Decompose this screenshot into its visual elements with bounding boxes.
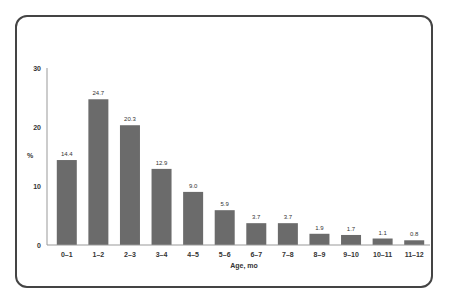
bar [373, 239, 393, 245]
x-tick-label: 5–6 [219, 251, 231, 258]
y-tick-label: 30 [33, 65, 41, 72]
bar-value-label: 1.7 [347, 226, 356, 232]
x-tick-label: 0–1 [61, 251, 73, 258]
bar-value-label: 1.9 [315, 225, 324, 231]
x-axis: 0–11–22–33–44–55–66–77–88–99–1010–1111–1… [47, 245, 430, 258]
x-tick-label: 9–10 [343, 251, 359, 258]
x-axis-title: Age, mo [230, 262, 258, 270]
x-tick-label: 8–9 [314, 251, 326, 258]
bars: 14.424.720.312.99.05.93.73.71.91.71.10.8 [57, 90, 424, 245]
bar [215, 210, 235, 245]
bar-chart: 0102030 14.424.720.312.99.05.93.73.71.91… [0, 0, 451, 302]
bar [309, 234, 329, 245]
bar-value-label: 5.9 [221, 201, 230, 207]
x-tick-label: 4–5 [187, 251, 199, 258]
x-tick-label: 6–7 [250, 251, 262, 258]
bar [278, 223, 298, 245]
bar [57, 160, 77, 245]
x-tick-label: 2–3 [124, 251, 136, 258]
x-tick-label: 10–11 [373, 251, 392, 258]
y-tick-label: 10 [33, 183, 41, 190]
y-axis-title: % [27, 152, 34, 159]
y-tick-label: 20 [33, 124, 41, 131]
bar-value-label: 9.0 [189, 183, 198, 189]
bar [246, 223, 266, 245]
bar [88, 99, 108, 245]
bar [404, 240, 424, 245]
bar-value-label: 0.8 [410, 231, 419, 237]
bar-value-label: 14.4 [61, 151, 73, 157]
bar [183, 192, 203, 245]
y-tick-label: 0 [37, 242, 41, 249]
x-tick-label: 3–4 [156, 251, 168, 258]
bar-value-label: 3.7 [284, 214, 293, 220]
bar-value-label: 3.7 [252, 214, 261, 220]
bar-value-label: 20.3 [124, 116, 136, 122]
bar-value-label: 1.1 [378, 230, 387, 236]
bar [120, 125, 140, 245]
x-tick-label: 11–12 [405, 251, 424, 258]
bar-value-label: 24.7 [93, 90, 105, 96]
y-axis: 0102030 [33, 65, 47, 249]
bar-value-label: 12.9 [156, 160, 168, 166]
x-tick-label: 7–8 [282, 251, 294, 258]
bar [341, 235, 361, 245]
bar [152, 169, 172, 245]
x-tick-label: 1–2 [93, 251, 105, 258]
